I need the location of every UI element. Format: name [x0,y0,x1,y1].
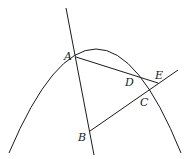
segment-ae [76,57,158,83]
label-a: A [63,50,72,63]
label-c: C [140,96,149,109]
label-b: B [77,131,86,144]
label-e: E [154,69,163,82]
line-be [90,70,178,131]
geometry-diagram: A B C D E [0,0,190,159]
label-d: D [124,76,134,89]
parabola-curve [9,49,181,153]
